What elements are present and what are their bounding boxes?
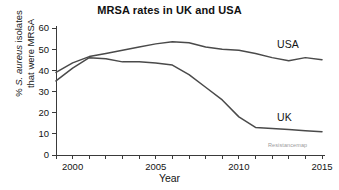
y-tick-label-0: 0	[44, 149, 49, 160]
watermark-label: Resistancemap	[268, 142, 307, 148]
series-label-uk: UK	[277, 111, 292, 123]
y-axis-title-line1: % S. aureus isolates	[13, 10, 24, 97]
y-axis-title: % S. aureus isolates that were MRSA	[13, 0, 36, 114]
x-tick-label-2005: 2005	[145, 161, 166, 172]
x-axis-title: Year	[0, 172, 339, 184]
series-labels-group: USAUK	[277, 38, 299, 123]
y-tick-label-20: 20	[38, 107, 49, 118]
x-tick-label-2000: 2000	[62, 161, 83, 172]
y-axis-species-name: S. aureus	[13, 45, 24, 86]
mrsa-rates-chart: MRSA rates in UK and USA 010203040506020…	[0, 0, 339, 190]
y-tick-label-40: 40	[38, 65, 49, 76]
y-tick-label-30: 30	[38, 86, 49, 97]
plot-area: 01020304050602000200520102015 USAUK	[0, 0, 339, 190]
y-tick-label-60: 60	[38, 22, 49, 33]
y-tick-label-10: 10	[38, 128, 49, 139]
x-tick-label-2015: 2015	[311, 161, 332, 172]
y-tick-label-50: 50	[38, 44, 49, 55]
y-axis-title-line2: that were MRSA	[24, 0, 36, 114]
y-axis-percent-symbol: %	[13, 88, 24, 96]
series-label-usa: USA	[277, 38, 299, 50]
x-tick-label-2010: 2010	[228, 161, 249, 172]
